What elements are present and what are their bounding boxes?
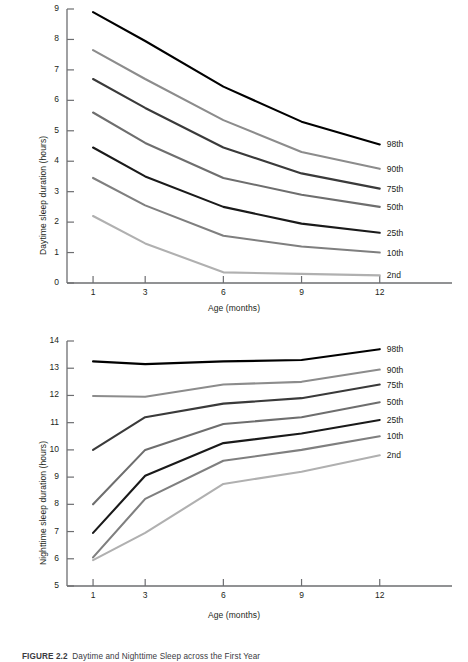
x-tick-label: 9	[287, 287, 317, 297]
y-tick-label: 6	[33, 94, 59, 104]
series-line-98th	[93, 349, 380, 364]
x-tick-label: 1	[78, 287, 108, 297]
series-line-2nd	[93, 216, 380, 275]
y-tick-label: 8	[33, 33, 59, 43]
x-tick-label: 3	[130, 590, 160, 600]
series-label-2nd: 2nd	[387, 450, 401, 460]
series-label-90th: 90th	[387, 365, 404, 375]
y-tick-label: 4	[33, 155, 59, 165]
y-tick-label: 5	[33, 580, 59, 590]
chart-panel-daytime: Daytime sleep duration (hours) Age (mont…	[0, 0, 468, 318]
y-tick-label: 10	[33, 444, 59, 454]
series-label-75th: 75th	[387, 184, 404, 194]
figure-caption: FIGURE 2.2 Daytime and Nighttime Sleep a…	[22, 652, 452, 661]
x-tick-label: 3	[130, 287, 160, 297]
y-tick-label: 9	[33, 471, 59, 481]
series-label-25th: 25th	[387, 228, 404, 238]
y-tick-label: 9	[33, 3, 59, 13]
nighttime-x-axis-title: Age (months)	[0, 610, 468, 620]
series-label-10th: 10th	[387, 431, 404, 441]
y-tick-label: 11	[33, 417, 59, 427]
series-line-25th	[93, 420, 380, 533]
series-label-10th: 10th	[387, 248, 404, 258]
series-line-75th	[93, 385, 380, 450]
x-tick-label: 12	[365, 590, 395, 600]
y-tick-label: 6	[33, 553, 59, 563]
series-label-90th: 90th	[387, 164, 404, 174]
series-line-10th	[93, 178, 380, 253]
series-label-2nd: 2nd	[387, 270, 401, 280]
y-tick-label: 7	[33, 64, 59, 74]
y-tick-label: 7	[33, 526, 59, 536]
y-tick-label: 14	[33, 335, 59, 345]
series-line-50th	[93, 402, 380, 504]
figure-caption-text: Daytime and Nighttime Sleep across the F…	[72, 652, 260, 661]
series-label-25th: 25th	[387, 415, 404, 425]
y-tick-label: 5	[33, 125, 59, 135]
y-tick-label: 1	[33, 247, 59, 257]
series-label-98th: 98th	[387, 139, 404, 149]
y-tick-label: 0	[33, 277, 59, 287]
daytime-x-axis-title: Age (months)	[0, 303, 468, 313]
x-tick-label: 1	[78, 590, 108, 600]
chart-panel-nighttime: Nighttime sleep duration (hours) Age (mo…	[0, 320, 468, 642]
series-label-98th: 98th	[387, 344, 404, 354]
y-tick-label: 13	[33, 362, 59, 372]
x-tick-label: 6	[208, 287, 238, 297]
y-tick-label: 8	[33, 498, 59, 508]
figure-caption-label: FIGURE 2.2	[22, 652, 68, 661]
series-label-50th: 50th	[387, 397, 404, 407]
series-line-10th	[93, 436, 380, 557]
y-tick-label: 3	[33, 186, 59, 196]
figure-container: Daytime sleep duration (hours) Age (mont…	[0, 0, 468, 662]
y-tick-label: 12	[33, 389, 59, 399]
series-label-50th: 50th	[387, 202, 404, 212]
series-label-75th: 75th	[387, 380, 404, 390]
y-tick-label: 2	[33, 216, 59, 226]
x-tick-label: 12	[365, 287, 395, 297]
x-tick-label: 9	[287, 590, 317, 600]
x-tick-label: 6	[208, 590, 238, 600]
